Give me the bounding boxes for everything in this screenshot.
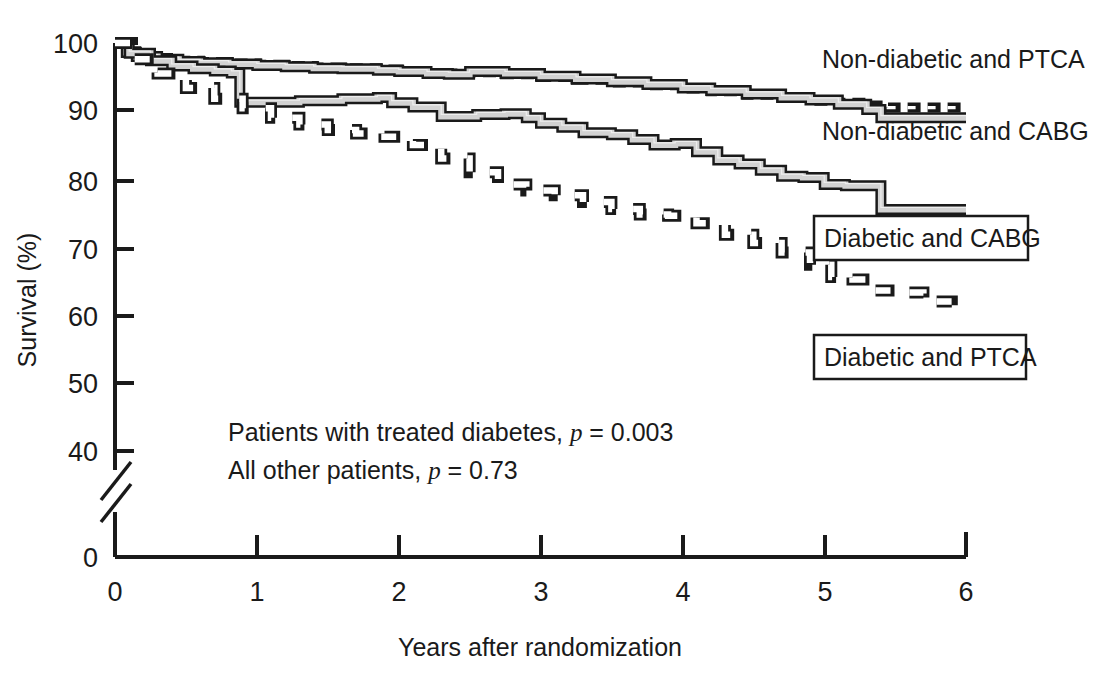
x-tick-label-3: 3 (533, 577, 548, 607)
annotation-1-text: Patients with treated diabetes, (228, 418, 570, 446)
survival-curve-chart: 100 90 80 70 60 50 40 0 0 1 2 3 4 5 6 (0, 0, 1115, 683)
series-label-nondiabetic-ptca: Non-diabetic and PTCA (822, 45, 1085, 73)
x-tick-label-6: 6 (958, 577, 973, 607)
annotation-line-1: Patients with treated diabetes, p = 0.00… (228, 418, 673, 446)
annotation-2-pvar: p (426, 457, 441, 484)
series-label-diabetic-ptca: Diabetic and PTCA (824, 343, 1037, 371)
annotation-1-value: = 0.003 (582, 418, 673, 446)
annotation-2-value: = 0.73 (441, 456, 518, 484)
series-label-nondiabetic-cabg: Non-diabetic and CABG (822, 117, 1089, 145)
y-tick-label-0: 0 (83, 543, 98, 573)
y-tick-label-90: 90 (68, 96, 98, 126)
annotation-2-text: All other patients, (228, 456, 428, 484)
figure-root: 100 90 80 70 60 50 40 0 0 1 2 3 4 5 6 (0, 0, 1115, 683)
annotation-1-pvar: p (568, 419, 583, 446)
series-label-diabetic-cabg: Diabetic and CABG (824, 224, 1041, 252)
y-tick-label-70: 70 (68, 235, 98, 265)
x-tick-label-0: 0 (107, 577, 122, 607)
annotation-line-2: All other patients, p = 0.73 (228, 456, 518, 484)
y-tick-label-40: 40 (68, 437, 98, 467)
x-tick-label-4: 4 (675, 577, 690, 607)
y-tick-label-100: 100 (53, 29, 98, 59)
x-tick-label-2: 2 (391, 577, 406, 607)
y-tick-label-50: 50 (68, 369, 98, 399)
x-tick-label-1: 1 (249, 577, 264, 607)
series-label-diabetic-cabg-group: Diabetic and CABG (814, 216, 1041, 260)
y-tick-label-60: 60 (68, 302, 98, 332)
x-axis-title: Years after randomization (398, 633, 682, 661)
y-tick-label-80: 80 (68, 167, 98, 197)
series-label-diabetic-ptca-group: Diabetic and PTCA (814, 335, 1037, 379)
x-tick-label-5: 5 (817, 577, 832, 607)
y-axis-title: Survival (%) (13, 233, 41, 368)
